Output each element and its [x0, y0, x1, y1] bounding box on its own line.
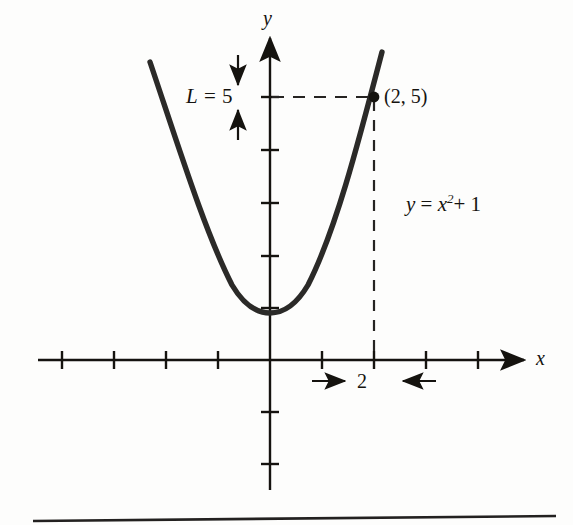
limit-figure: y x L = 5 (2, 5) y = x2+ 1 2	[0, 0, 573, 525]
x-axis-label: x	[536, 348, 545, 368]
point-coordinates-label: (2, 5)	[384, 86, 427, 106]
marked-point-dot	[369, 92, 380, 103]
equation-x: x	[438, 192, 447, 216]
figure-canvas	[0, 0, 573, 525]
y-axis	[261, 38, 279, 490]
limit-value-label: L = 5	[186, 86, 233, 107]
limit-equals: = 5	[198, 84, 233, 108]
equation-y: y	[406, 192, 415, 216]
x-axis	[38, 351, 524, 369]
equation-equals: =	[415, 192, 437, 216]
parabola-curve	[150, 52, 382, 313]
limit-symbol: L	[186, 84, 198, 108]
page-rule	[33, 516, 556, 521]
equation-tail: + 1	[454, 192, 482, 216]
y-axis-label: y	[263, 8, 272, 28]
approach-value-label: 2	[357, 371, 367, 391]
curve-equation-label: y = x2+ 1	[406, 192, 481, 215]
